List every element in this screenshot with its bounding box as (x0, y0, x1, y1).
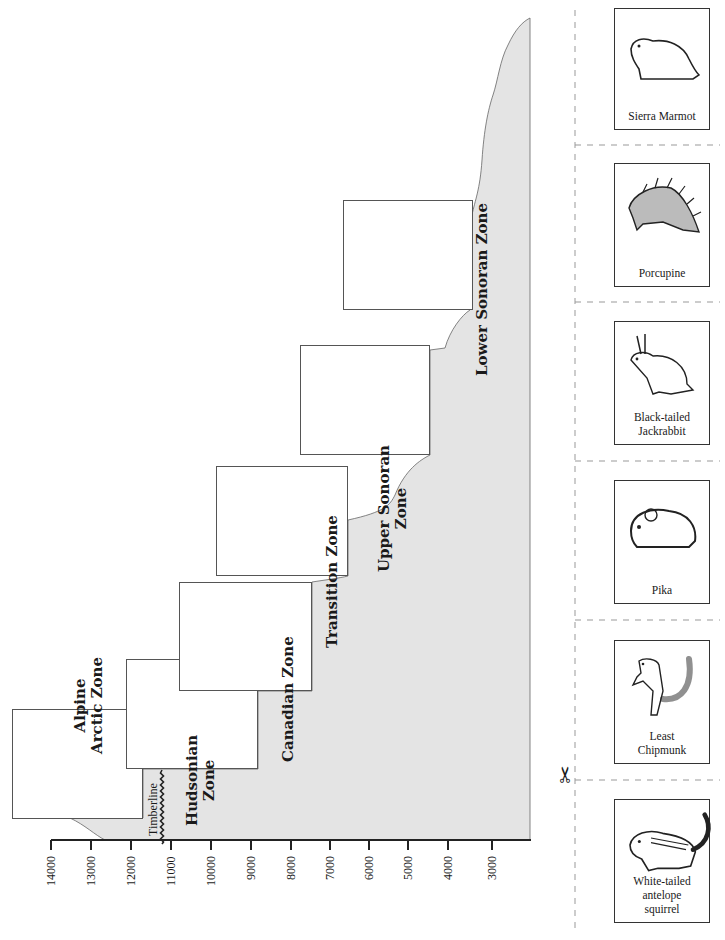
axis-ticks (51, 840, 492, 850)
chipmunk-icon (623, 651, 703, 721)
card-sierra-marmot[interactable]: Sierra Marmot (614, 8, 710, 130)
zone-label-line: Arctic Zone (89, 657, 106, 754)
caption-line: Black-tailed (615, 410, 709, 424)
card-porcupine[interactable]: Porcupine (614, 163, 710, 287)
answer-box-upper-sonoran[interactable] (300, 345, 430, 455)
tick-label: 13000 (84, 856, 99, 886)
caption-line: Sierra Marmot (615, 109, 709, 123)
card-least-chipmunk[interactable]: Least Chipmunk (614, 640, 710, 764)
tick-label: 7000 (323, 856, 338, 880)
tick-label: 10000 (204, 856, 219, 886)
zone-label-alpine-arctic: Alpine Arctic Zone (72, 657, 106, 754)
zone-label-hudsonian: Hudsonian Zone (184, 735, 218, 826)
zone-label-upper-sonoran: Upper Sonoran Zone (376, 445, 410, 572)
caption-line: antelope (615, 888, 709, 902)
tick-label: 3000 (485, 856, 500, 880)
caption-line: White-tailed (615, 874, 709, 888)
zone-label-line: Alpine (72, 657, 89, 754)
card-caption: Least Chipmunk (615, 729, 709, 757)
card-white-tailed-antelope-squirrel[interactable]: White-tailed antelope squirrel (614, 799, 710, 923)
caption-line: Pika (615, 583, 709, 597)
caption-line: Chipmunk (615, 743, 709, 757)
caption-line: Porcupine (615, 266, 709, 280)
zone-label-transition: Transition Zone (324, 515, 341, 648)
tick-label: 9000 (244, 856, 259, 880)
card-caption: Porcupine (615, 266, 709, 280)
card-caption: White-tailed antelope squirrel (615, 874, 709, 916)
card-caption: Pika (615, 583, 709, 597)
caption-line: Least (615, 729, 709, 743)
card-pika[interactable]: Pika (614, 480, 710, 604)
tick-label: 14000 (44, 856, 59, 886)
jackrabbit-icon (623, 332, 703, 402)
marmot-icon (623, 19, 703, 89)
zone-label-lower-sonoran: Lower Sonoran Zone (474, 203, 491, 376)
porcupine-icon (623, 174, 703, 244)
tick-label: 6000 (362, 856, 377, 880)
zone-label-line: Upper Sonoran (376, 445, 393, 572)
tick-label: 12000 (124, 856, 139, 886)
card-caption: Black-tailed Jackrabbit (615, 410, 709, 438)
tick-label: 8000 (284, 856, 299, 880)
tick-label: 11000 (164, 856, 179, 886)
card-caption: Sierra Marmot (615, 109, 709, 123)
zone-label-canadian: Canadian Zone (280, 636, 297, 762)
pika-icon (623, 491, 703, 561)
zone-label-line: Zone (393, 445, 410, 572)
tick-label: 5000 (401, 856, 416, 880)
scissors-icon: ✂ (553, 765, 578, 783)
caption-line: Jackrabbit (615, 424, 709, 438)
answer-box-lower-sonoran[interactable] (343, 200, 473, 310)
antelope-squirrel-icon (623, 810, 716, 880)
life-zones-worksheet: 14000 13000 12000 11000 10000 9000 8000 … (0, 0, 725, 940)
zone-label-line: Zone (201, 735, 218, 826)
cut-lines (575, 10, 720, 930)
zone-label-line: Hudsonian (184, 735, 201, 826)
caption-line: squirrel (615, 902, 709, 916)
timberline-label: Timberline (146, 783, 161, 836)
card-black-tailed-jackrabbit[interactable]: Black-tailed Jackrabbit (614, 321, 710, 445)
tick-label: 4000 (441, 856, 456, 880)
